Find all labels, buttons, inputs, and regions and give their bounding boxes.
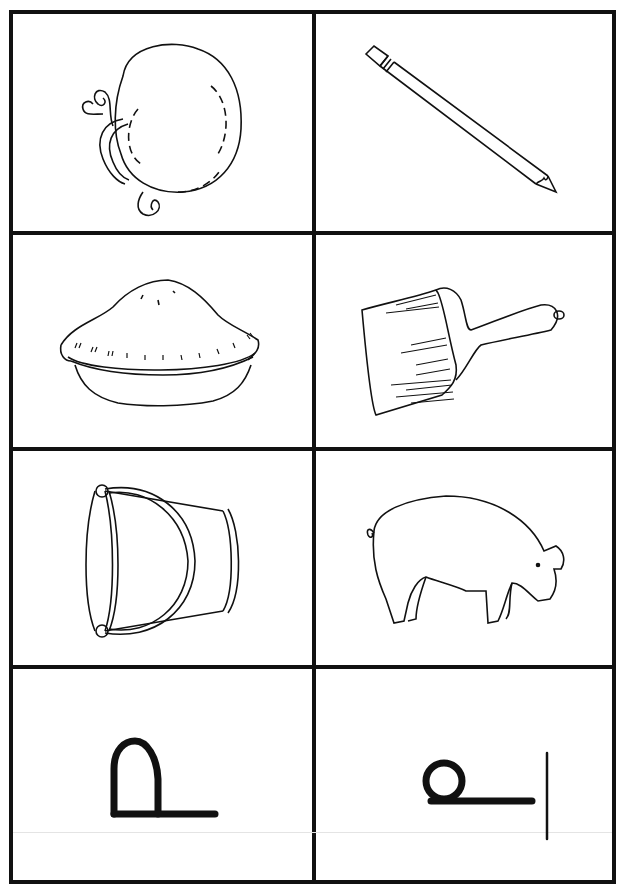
cell-pumpkin bbox=[13, 14, 312, 231]
pie-icon bbox=[13, 235, 312, 447]
cell-pail bbox=[13, 451, 312, 665]
cell-paintbrush bbox=[316, 235, 616, 447]
arch-glyph-icon bbox=[13, 669, 312, 884]
pail-icon bbox=[13, 451, 312, 665]
pig-icon bbox=[316, 451, 616, 665]
cell-glyph-arch bbox=[13, 669, 312, 884]
pencil-icon bbox=[316, 14, 616, 231]
worksheet-grid bbox=[9, 10, 616, 884]
cell-glyph-loop bbox=[316, 669, 616, 884]
pumpkin-icon bbox=[13, 14, 312, 231]
cell-pencil bbox=[316, 14, 616, 231]
paintbrush-icon bbox=[316, 235, 616, 447]
cell-pig bbox=[316, 451, 616, 665]
cell-pie bbox=[13, 235, 312, 447]
loop-glyph-icon bbox=[316, 669, 616, 884]
